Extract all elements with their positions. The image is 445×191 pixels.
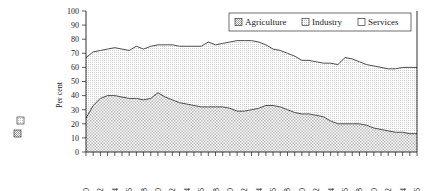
- x-tick-label: 2002: [384, 188, 393, 191]
- y-axis-ticks: 0102030405060708090100: [67, 7, 86, 157]
- legend-label-services[interactable]: Services: [368, 17, 399, 27]
- legend-label-agriculture[interactable]: Agriculture: [245, 17, 286, 27]
- y-axis-title: Per cent: [55, 81, 64, 108]
- x-tick-label: 2004: [399, 188, 408, 191]
- x-tick-label: 1978: [212, 188, 221, 191]
- y-tick-label: 30: [71, 106, 79, 115]
- x-tick-label: 1980: [226, 188, 235, 191]
- x-tick-label: 1990: [298, 188, 307, 191]
- orphan-swatch-upper: [17, 117, 24, 124]
- x-tick-label: 1968: [140, 188, 149, 191]
- y-tick-label: 90: [71, 21, 79, 30]
- x-tick-label: 1982: [240, 188, 249, 191]
- x-tick-label: 1972: [168, 188, 177, 191]
- x-tick-label: 1976: [197, 188, 206, 191]
- x-tick-label: 1960: [82, 188, 91, 191]
- chart-legend[interactable]: AgricultureIndustryServices: [229, 13, 411, 31]
- x-tick-label: 1962: [96, 188, 105, 191]
- y-tick-label: 20: [71, 120, 79, 129]
- x-tick-label: 1986: [269, 188, 278, 191]
- y-tick-label: 0: [75, 148, 79, 157]
- x-tick-label: 1994: [327, 188, 336, 191]
- y-tick-label: 80: [71, 35, 79, 44]
- y-tick-label: 60: [71, 63, 79, 72]
- legend-swatch-services[interactable]: [358, 19, 365, 26]
- x-tick-label: 1974: [183, 188, 192, 191]
- x-tick-label: 1992: [312, 188, 321, 191]
- x-tick-label: 1984: [255, 188, 264, 191]
- orphan-swatch-group: [14, 117, 24, 137]
- legend-label-industry[interactable]: Industry: [312, 17, 342, 27]
- y-axis-title-group: Per cent: [55, 81, 64, 108]
- x-tick-label: 2006: [413, 188, 422, 191]
- area-chart-svg: 0102030405060708090100 19601962196419661…: [0, 0, 445, 191]
- x-tick-label: 1970: [154, 188, 163, 191]
- y-tick-label: 40: [71, 91, 79, 100]
- y-tick-label: 100: [67, 7, 79, 16]
- x-axis-tick-labels: 1960196219641966196819701972197419761978…: [82, 188, 422, 191]
- y-tick-label: 10: [71, 134, 79, 143]
- x-axis-ticks: [86, 152, 417, 156]
- x-tick-label: 1996: [341, 188, 350, 191]
- x-tick-label: 1988: [283, 188, 292, 191]
- x-tick-label: 1998: [355, 188, 364, 191]
- x-tick-label: 2000: [370, 188, 379, 191]
- x-tick-label: 1966: [125, 188, 134, 191]
- x-tick-label: 1964: [111, 188, 120, 191]
- legend-swatch-agriculture[interactable]: [235, 19, 242, 26]
- orphan-swatch-lower: [14, 130, 21, 137]
- legend-swatch-industry[interactable]: [302, 19, 309, 26]
- y-tick-label: 70: [71, 49, 79, 58]
- y-tick-label: 50: [71, 77, 79, 86]
- chart-areas: [86, 11, 417, 152]
- chart-figure: 0102030405060708090100 19601962196419661…: [0, 0, 445, 191]
